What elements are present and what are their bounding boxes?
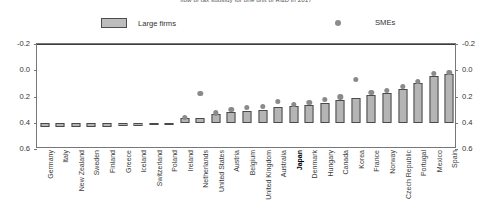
dot-smes (322, 97, 327, 102)
bar-column[interactable] (379, 44, 395, 147)
bar-column[interactable] (224, 44, 240, 147)
bar-large-firms (87, 123, 96, 128)
bar-column[interactable] (270, 44, 286, 147)
bar-column[interactable] (99, 44, 115, 147)
bar-column[interactable] (410, 44, 426, 147)
bar-column[interactable] (208, 44, 224, 147)
bar-large-firms (56, 123, 65, 128)
x-axis-label: Finland (109, 150, 116, 173)
dot-smes (275, 99, 280, 104)
bar-column[interactable] (161, 44, 177, 147)
axis-tick (455, 97, 458, 98)
bar-large-firms (149, 123, 158, 126)
y-axis-tick-label: 0.0 (0, 65, 30, 74)
x-axis-label: Korea (358, 150, 365, 169)
axis-tick (455, 123, 458, 124)
x-axis-label: New Zealand (78, 150, 85, 191)
bar-column[interactable] (177, 44, 193, 147)
bar-large-firms (398, 89, 407, 123)
x-axis-label: Ireland (187, 150, 194, 171)
bar-column[interactable] (37, 44, 53, 147)
axis-tick (455, 70, 458, 71)
y-axis-tick-label: -0.2 (462, 39, 492, 48)
bar-column[interactable] (317, 44, 333, 147)
x-axis-label: United States (218, 150, 225, 192)
x-axis-label: Italy (62, 150, 69, 163)
x-axis-label: Norway (389, 150, 396, 174)
y-axis-tick-label: 0.6 (0, 144, 30, 153)
legend-label-large-firms: Large firms (138, 19, 176, 28)
bar-column[interactable] (395, 44, 411, 147)
legend-label-smes: SMEs (375, 18, 395, 27)
x-axis-category-labels: GermanyItalyNew ZealandSwedenFinlandGree… (36, 150, 456, 220)
x-axis-label: Netherlands (202, 150, 209, 188)
dot-swatch-icon (335, 20, 341, 26)
x-axis-label: Germany (47, 150, 54, 179)
dot-smes (353, 77, 358, 82)
bar-column[interactable] (146, 44, 162, 147)
bar-column[interactable] (130, 44, 146, 147)
y-axis-tick-label: 0.2 (462, 92, 492, 101)
bar-column[interactable] (115, 44, 131, 147)
axis-tick (34, 44, 37, 45)
x-axis-label: Portugal (420, 150, 427, 176)
chart-title: flow of tax subsidy for one unit of R&D … (0, 0, 492, 4)
bar-large-firms (118, 123, 127, 126)
bar-column[interactable] (301, 44, 317, 147)
y-axis-tick-label: -0.2 (0, 39, 30, 48)
y-axis-tick-label: 0.2 (0, 92, 30, 101)
x-axis-label: Czech Republic (405, 150, 412, 199)
bar-large-firms (414, 83, 423, 122)
bar-large-firms (134, 123, 143, 126)
bar-large-firms (242, 111, 251, 123)
x-axis-label: Japan (296, 150, 303, 170)
bar-column[interactable] (193, 44, 209, 147)
x-axis-label: Belgium (249, 150, 256, 175)
bar-large-firms (165, 123, 174, 125)
x-axis-label: Australia (280, 150, 287, 177)
bar-column[interactable] (68, 44, 84, 147)
x-axis-label: Hungary (327, 150, 334, 176)
bar-column[interactable] (239, 44, 255, 147)
chart-legend: Large firms SMEs (0, 18, 492, 32)
bar-large-firms (102, 123, 111, 128)
bar-column[interactable] (286, 44, 302, 147)
bar-column[interactable] (426, 44, 442, 147)
x-axis-label: Denmark (311, 150, 318, 178)
x-axis-label: Greece (125, 150, 132, 173)
bar-column[interactable] (255, 44, 271, 147)
bar-column[interactable] (441, 44, 457, 147)
dot-smes (198, 91, 203, 96)
dot-smes (244, 105, 249, 110)
bar-column[interactable] (333, 44, 349, 147)
bar-large-firms (351, 98, 360, 122)
axis-tick (34, 70, 37, 71)
bar-large-firms (227, 112, 236, 123)
bar-large-firms (320, 103, 329, 123)
bar-large-firms (40, 123, 49, 128)
data-series-layer (37, 44, 455, 147)
bar-large-firms (336, 100, 345, 123)
x-axis-label: United Kingdom (265, 150, 272, 200)
bar-large-firms (71, 123, 80, 128)
x-axis-label: France (373, 150, 380, 172)
axis-tick (34, 97, 37, 98)
bar-column[interactable] (348, 44, 364, 147)
y-axis-tick-label: 0.0 (462, 65, 492, 74)
bar-large-firms (367, 95, 376, 123)
bar-swatch-icon (101, 18, 127, 28)
x-axis-label: Austria (233, 150, 240, 172)
y-axis-tick-label: 0.4 (462, 118, 492, 127)
x-axis-label: Spain (451, 150, 458, 168)
bar-column[interactable] (53, 44, 69, 147)
bar-column[interactable] (84, 44, 100, 147)
dot-smes (260, 104, 265, 109)
bar-large-firms (274, 107, 283, 123)
bar-column[interactable] (364, 44, 380, 147)
y-axis-tick-label: 0.6 (462, 144, 492, 153)
axis-tick (34, 123, 37, 124)
bar-large-firms (196, 118, 205, 123)
bar-large-firms (289, 106, 298, 123)
bar-large-firms (382, 93, 391, 123)
legend-item-large-firms: Large firms (101, 18, 176, 28)
